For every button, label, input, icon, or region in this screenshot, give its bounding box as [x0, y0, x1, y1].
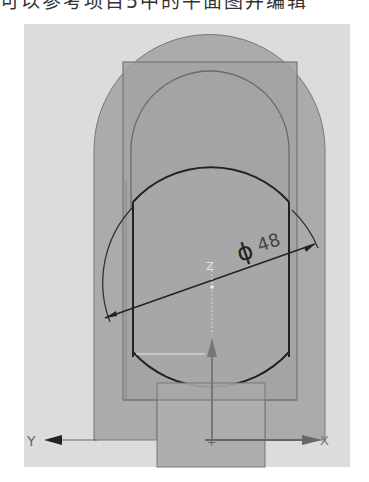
x-axis-label: X — [320, 433, 329, 448]
origin-point — [210, 285, 214, 289]
cad-sketch-canvas[interactable]: ϕ 48 Z X + Y — [0, 0, 369, 482]
y-axis-label: Y — [26, 433, 36, 449]
z-axis-label: Z — [206, 260, 214, 273]
origin-marker: + — [207, 436, 216, 449]
